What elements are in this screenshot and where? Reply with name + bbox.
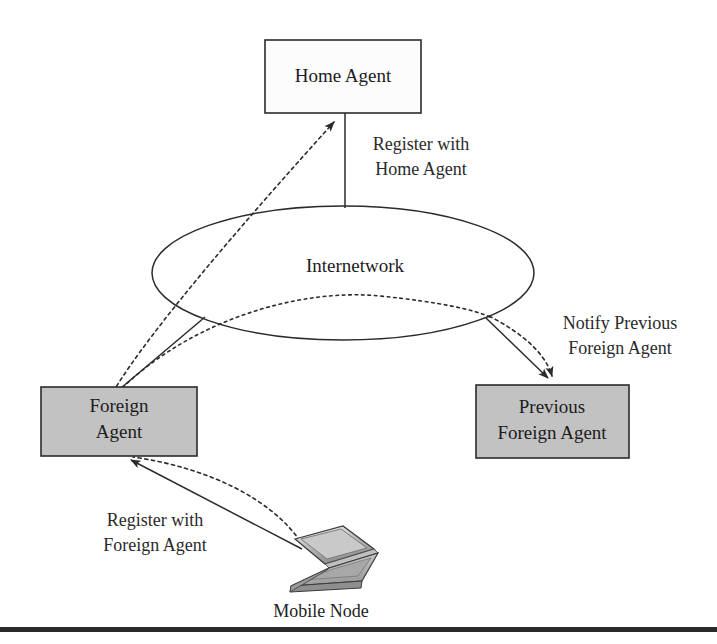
node-home-agent[interactable]: Home Agent — [265, 40, 421, 113]
home-agent-label: Home Agent — [295, 65, 392, 86]
node-previous-foreign-agent[interactable]: Previous Foreign Agent — [476, 385, 629, 458]
link-foreign-agent-to-home-agent — [113, 122, 334, 392]
bottom-rule — [0, 627, 717, 632]
previous-foreign-agent-label-line2: Foreign Agent — [497, 422, 607, 443]
node-foreign-agent[interactable]: Foreign Agent — [41, 387, 197, 456]
register-home-line2: Home Agent — [375, 159, 467, 179]
register-foreign-line1: Register with — [107, 510, 204, 530]
register-home-line1: Register with — [373, 134, 470, 154]
laptop-icon — [290, 526, 378, 592]
notify-previous-line2: Foreign Agent — [568, 338, 672, 358]
link-internetwork-to-previous-foreign-agent — [486, 318, 548, 378]
edge-label-register-foreign: Register with Foreign Agent — [103, 510, 207, 555]
previous-foreign-agent-label-line1: Previous — [519, 396, 586, 417]
link-tunnel-to-previous-foreign-agent — [489, 316, 552, 376]
mobile-node-label: Mobile Node — [273, 601, 368, 621]
foreign-agent-label-line1: Foreign — [89, 395, 149, 416]
notify-previous-line1: Notify Previous — [563, 313, 678, 333]
diagram-svg: Internetwork Home Agent Foreign Agent Pr… — [0, 0, 717, 644]
edge-label-register-home: Register with Home Agent — [373, 134, 470, 179]
register-foreign-line2: Foreign Agent — [103, 535, 207, 555]
edge-label-notify-previous: Notify Previous Foreign Agent — [563, 313, 678, 358]
diagram-canvas: Internetwork Home Agent Foreign Agent Pr… — [0, 0, 717, 644]
internetwork-label: Internetwork — [306, 255, 405, 276]
foreign-agent-label-line2: Agent — [96, 421, 143, 442]
